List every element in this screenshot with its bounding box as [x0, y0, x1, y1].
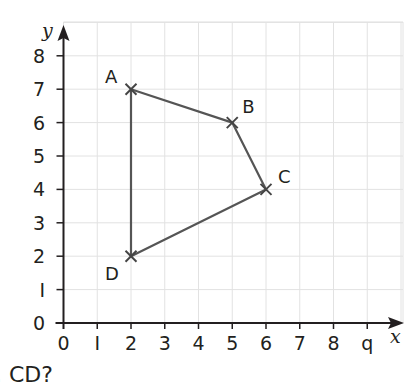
- y-tick-label: 6: [33, 112, 45, 134]
- y-axis-label: y: [41, 19, 53, 41]
- y-tick-label: 5: [33, 145, 45, 167]
- y-tick-label: 3: [33, 212, 45, 234]
- x-tick-label: q: [361, 332, 373, 354]
- x-tick-label: 3: [159, 332, 171, 354]
- point-a: A: [105, 66, 137, 95]
- y-tick-label: 0: [33, 312, 45, 334]
- x-tick-label: 6: [260, 332, 272, 354]
- x-tick-label: 5: [226, 332, 238, 354]
- point-label: C: [278, 166, 291, 187]
- y-tick-label: 4: [33, 178, 45, 200]
- x-tick-label: I: [94, 332, 100, 354]
- y-tick-label: 2: [33, 245, 45, 267]
- coordinate-grid-chart: xy 0I2345678q0I2345678 ABCD: [0, 0, 417, 386]
- point-label: B: [242, 96, 254, 117]
- y-tick-label: 7: [33, 78, 45, 100]
- x-tick-label: 7: [294, 332, 306, 354]
- plotted-points: ABCD: [105, 66, 291, 284]
- x-axis-label: x: [390, 325, 401, 347]
- y-tick-label: 8: [33, 45, 45, 67]
- question-text: … CD?: [0, 362, 53, 386]
- point-c: C: [261, 166, 291, 195]
- point-b: B: [227, 96, 255, 129]
- y-tick-label: I: [39, 279, 45, 301]
- point-label: D: [105, 263, 119, 284]
- axis-ticks: 0I2345678q0I2345678: [33, 45, 373, 354]
- point-label: A: [105, 66, 118, 87]
- x-tick-label: 0: [57, 332, 69, 354]
- question-fragment: CD?: [9, 362, 53, 386]
- axes: xy: [41, 19, 404, 347]
- x-tick-label: 4: [192, 332, 204, 354]
- x-tick-label: 2: [125, 332, 137, 354]
- x-tick-label: 8: [327, 332, 339, 354]
